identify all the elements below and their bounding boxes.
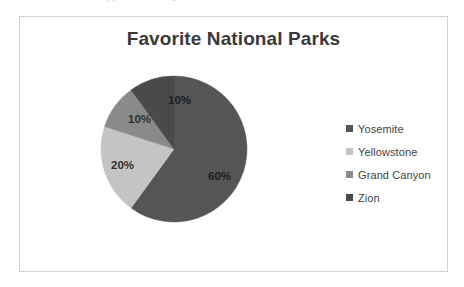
slice-label-yellowstone: 20%	[111, 159, 134, 171]
legend-swatch-icon	[346, 171, 353, 178]
slice-label-grand-canyon: 10%	[128, 113, 151, 125]
chart-legend: Yosemite Yellowstone Grand Canyon Zion	[346, 117, 446, 209]
chart-title: Favorite National Parks	[20, 28, 447, 50]
clipped-text-strip: the bottom of a clipped line of body tex…	[0, 0, 464, 13]
legend-item-yellowstone[interactable]: Yellowstone	[346, 140, 446, 163]
legend-swatch-icon	[346, 194, 353, 201]
legend-item-yosemite[interactable]: Yosemite	[346, 117, 446, 140]
legend-item-label: Zion	[358, 192, 380, 204]
chart-frame: Favorite National Parks 60% 20% 10% 10% …	[19, 16, 448, 272]
legend-swatch-icon	[346, 125, 353, 132]
legend-item-label: Yosemite	[358, 123, 404, 135]
legend-swatch-icon	[346, 148, 353, 155]
slice-label-zion: 10%	[168, 94, 191, 106]
slice-label-yosemite: 60%	[208, 170, 231, 182]
pie-chart-plot-area: 60% 20% 10% 10%	[100, 75, 248, 223]
legend-item-label: Yellowstone	[358, 146, 417, 158]
legend-item-label: Grand Canyon	[358, 169, 431, 181]
legend-item-zion[interactable]: Zion	[346, 186, 446, 209]
clipped-text-line: the bottom of a clipped line of body tex…	[34, 0, 454, 2]
legend-item-grand-canyon[interactable]: Grand Canyon	[346, 163, 446, 186]
